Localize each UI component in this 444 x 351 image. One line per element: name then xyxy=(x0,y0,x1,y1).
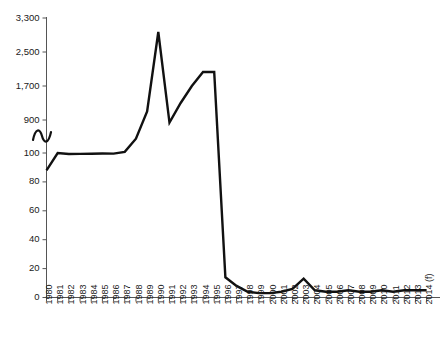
x-tick-label: 1993 xyxy=(189,284,199,304)
x-tick-label: 1995 xyxy=(212,284,222,304)
x-tick-label: 2004 xyxy=(312,284,322,304)
y-tick-group xyxy=(43,18,47,298)
x-tick-label: 1985 xyxy=(100,284,110,304)
y-tick-label: 3,300 xyxy=(16,12,40,23)
x-tick-label: 1992 xyxy=(178,284,188,304)
x-tick-label: 1982 xyxy=(66,284,76,304)
y-tick-label: 20 xyxy=(29,262,40,273)
x-tick-label: 1991 xyxy=(167,284,177,304)
y-tick-label: 80 xyxy=(29,175,40,186)
y-tick-label: 1,700 xyxy=(16,80,40,91)
x-tick-label: 1990 xyxy=(156,284,166,304)
x-tick-label: 1996 xyxy=(223,284,233,304)
chart-page: 0204060801009001,7002,5003,300 198019811… xyxy=(0,0,444,351)
y-tick-label: 2,500 xyxy=(16,46,40,57)
y-tick-label: 40 xyxy=(29,233,40,244)
x-tick-label: 2001 xyxy=(279,284,289,304)
x-tick-label: 1987 xyxy=(122,284,132,304)
x-tick-label: 2014 (f) xyxy=(424,273,434,304)
x-tick-label: 2013 xyxy=(413,284,423,304)
data-series-line xyxy=(47,32,427,293)
x-tick-label: 1999 xyxy=(256,284,266,304)
x-tick-label: 2008 xyxy=(357,284,367,304)
y-tick-label: 60 xyxy=(29,204,40,215)
axis-break-squiggle xyxy=(33,130,51,141)
x-tick-label: 1986 xyxy=(111,284,121,304)
x-tick-label: 2006 xyxy=(335,284,345,304)
line-chart: 0204060801009001,7002,5003,300 198019811… xyxy=(0,0,444,351)
x-tick-label-group: 1980198119821983198419851986198719881989… xyxy=(44,273,434,304)
y-tick-label: 100 xyxy=(24,147,40,158)
x-tick-label: 1997 xyxy=(234,284,244,304)
x-tick-label: 1984 xyxy=(89,284,99,304)
x-tick-label: 1983 xyxy=(78,284,88,304)
x-tick-label: 1998 xyxy=(245,284,255,304)
y-tick-label: 0 xyxy=(34,291,39,302)
x-tick-label: 2009 xyxy=(368,284,378,304)
x-tick-label: 1981 xyxy=(55,284,65,304)
axis-break-marker xyxy=(33,130,51,141)
x-tick-label: 2003 xyxy=(301,284,311,304)
x-tick-label: 2011 xyxy=(391,285,401,304)
x-tick-label: 2007 xyxy=(346,284,356,304)
x-tick-label: 1980 xyxy=(44,284,54,304)
x-tick-label: 2012 xyxy=(402,284,412,304)
x-tick-label: 1994 xyxy=(201,284,211,304)
x-tick-label: 2005 xyxy=(324,284,334,304)
x-tick-label: 1989 xyxy=(145,284,155,304)
x-tick-label: 2002 xyxy=(290,284,300,304)
y-tick-label: 900 xyxy=(24,114,40,125)
x-tick-label: 2000 xyxy=(268,284,278,304)
x-tick-label: 1988 xyxy=(134,284,144,304)
x-tick-label: 2010 xyxy=(379,284,389,304)
y-tick-label-group: 0204060801009001,7002,5003,300 xyxy=(16,12,40,303)
